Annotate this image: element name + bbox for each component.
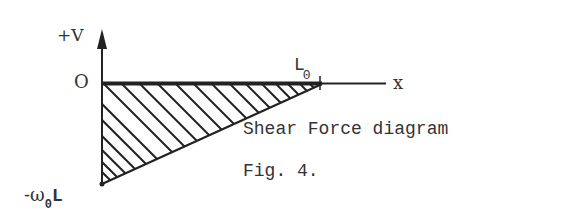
shear-force-diagram — [0, 0, 570, 219]
y-axis-arrow-icon — [97, 29, 107, 49]
figure-number: Fig. 4. — [243, 162, 319, 180]
length-subscript: 0 — [303, 68, 311, 83]
origin-label: O — [74, 73, 89, 91]
min-value-label: -ω0L — [24, 186, 63, 205]
diagram-caption: Shear Force diagram — [243, 120, 448, 138]
length-label: L0 — [294, 56, 313, 74]
min-value-point — [100, 182, 105, 187]
min-value-suffix: L — [52, 186, 63, 206]
min-value-prefix: -ω — [24, 184, 45, 205]
min-value-subscript: 0 — [45, 198, 52, 212]
y-axis-label: +V — [57, 27, 84, 44]
x-axis-label: x — [393, 74, 403, 92]
